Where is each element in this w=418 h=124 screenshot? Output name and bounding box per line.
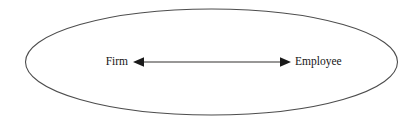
- diagram-canvas: Firm Employee: [0, 0, 418, 124]
- arrow-head-right-icon: [280, 57, 291, 66]
- node-label-employee: Employee: [295, 55, 342, 68]
- node-label-firm: Firm: [106, 55, 128, 67]
- diagram-svg: Firm Employee: [0, 0, 418, 124]
- arrow-head-left-icon: [133, 57, 144, 66]
